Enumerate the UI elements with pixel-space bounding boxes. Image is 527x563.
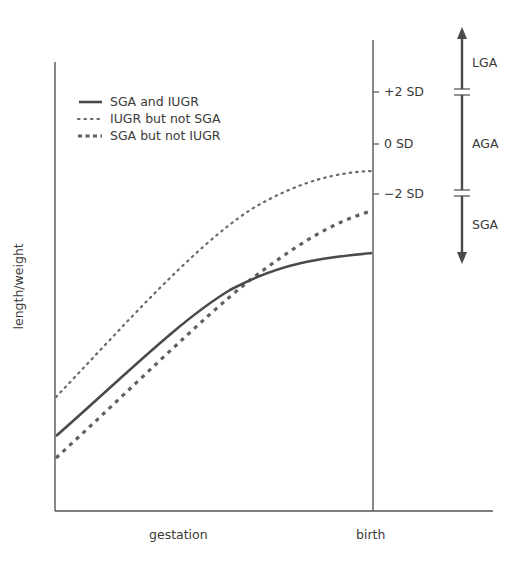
category-label-aga: AGA [472, 138, 499, 151]
legend-label-iugr-not-sga: IUGR but not SGA [110, 113, 221, 126]
sd-label-minus2: −2 SD [384, 188, 424, 201]
birth-label: birth [356, 529, 385, 542]
y-axis-label: length/weight [11, 250, 26, 330]
curve-sga-and-iugr [56, 253, 372, 436]
category-label-sga: SGA [472, 219, 498, 232]
legend-label-sga-not-iugr: SGA but not IUGR [110, 130, 221, 143]
sd-label-0: 0 SD [384, 138, 414, 151]
curve-sga-not-iugr [56, 211, 372, 458]
arrow-up-icon [457, 27, 467, 39]
curve-iugr-not-sga [56, 171, 372, 397]
category-label-lga: LGA [472, 57, 497, 70]
arrow-down-icon [457, 252, 467, 264]
chart-canvas [0, 0, 527, 563]
legend-label-sga-and-iugr: SGA and IUGR [110, 96, 199, 109]
sd-label-plus2: +2 SD [384, 86, 424, 99]
x-axis-label: gestation [149, 529, 208, 542]
